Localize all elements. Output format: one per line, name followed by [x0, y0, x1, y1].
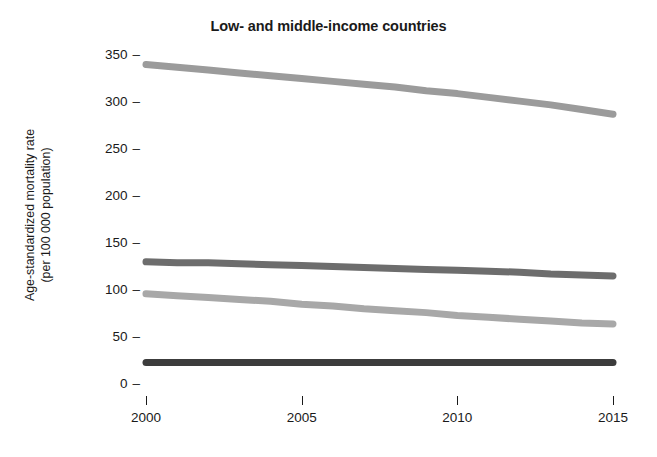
series-line [146, 64, 613, 114]
series-line [146, 294, 613, 324]
series-line [146, 262, 613, 276]
plot-area [0, 0, 657, 457]
chart-container: Low- and middle-income countries Age-sta… [0, 0, 657, 457]
